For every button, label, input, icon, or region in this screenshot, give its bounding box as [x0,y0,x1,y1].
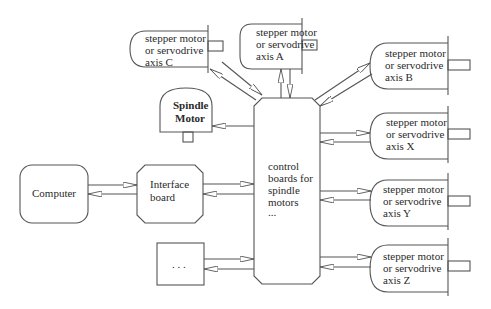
axis-b-label-3: axis B [385,71,413,84]
interface-board-label-1: Interface [150,178,189,191]
other-label: . . . [172,258,186,271]
control-boards-label-5: ... [268,206,276,219]
spindle-shaft [183,132,193,142]
axis-z-label-3: axis Z [383,274,410,287]
axis-x-label-3: axis X [386,140,414,153]
computer-label: Computer [32,187,76,200]
axis-c-label-3: axis C [145,56,173,69]
axis-y-label-3: axis Y [383,207,411,220]
interface-board-label-2: board [150,191,175,204]
spindle-motor-label-2: Motor [175,112,205,125]
edge-control-to-axis-b [315,63,370,100]
axis-a-label-3: axis A [256,50,284,63]
spindle-motor-label-1: Spindle [173,99,208,112]
